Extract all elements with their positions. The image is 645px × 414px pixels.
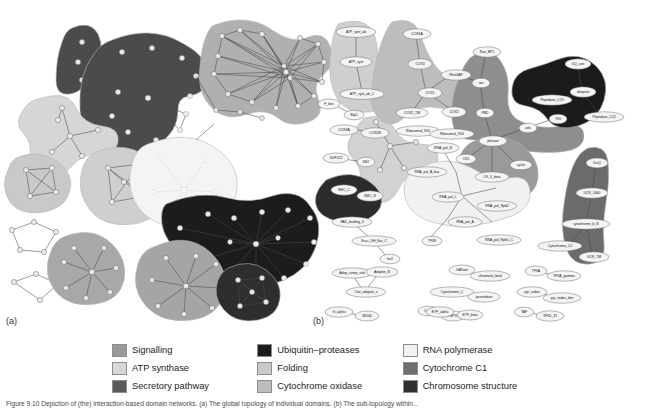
legend-item-ubiquitin-proteases: Ubiquitin–proteases [257,342,396,358]
svg-text:PBD: PBD [482,111,490,115]
svg-text:Peptidase_C19: Peptidase_C19 [540,98,563,102]
svg-text:UCR_14kD: UCR_14kD [583,191,601,195]
legend-swatch [257,362,272,375]
svg-text:FAD_binding_3: FAD_binding_3 [340,220,363,224]
legend-item-secretory-pathway: Secretory pathway [112,378,251,394]
svg-text:GATase: GATase [456,268,468,272]
svg-text:Succ_DH_flav_C: Succ_DH_flav_C [361,239,387,243]
svg-text:cytochrome_b_N: cytochrome_b_N [573,222,599,226]
svg-text:Cytochrome_C1: Cytochrome_C1 [548,244,573,248]
svg-text:ETF_beta: ETF_beta [463,313,478,317]
figure-protein-domain-networks: .blob{stroke:#b5b5b5;stroke-width:.6;} .… [0,0,645,414]
legend-swatch [403,344,418,357]
legend-item-cytochrome-oxidase: Cytochrome oxidase [257,378,396,394]
svg-text:RNA_pol_L: RNA_pol_L [439,195,456,199]
svg-text:Ran_BP1: Ran_BP1 [480,50,495,54]
svg-text:Cytochrome_C: Cytochrome_C [441,290,464,294]
legend-item-folding: Folding [257,360,396,376]
panel-b-label: (b) [313,316,324,326]
svg-text:cyclin: cyclin [517,163,526,167]
svg-text:Adap_comp_sub: Adap_comp_sub [339,271,365,275]
svg-text:RNA_pol_A_bac: RNA_pol_A_bac [414,170,439,174]
svg-text:F_box: F_box [324,102,334,106]
svg-text:RhoGAP: RhoGAP [449,73,463,77]
svg-text:UQ_con: UQ_con [572,62,585,66]
svg-text:CK_II_beta: CK_II_beta [484,175,501,179]
svg-text:SMC_N: SMC_N [364,194,376,198]
legend-item-rna-polymerase: RNA polymerase [403,342,542,358]
svg-text:UcrQ: UcrQ [593,161,601,165]
legend-label: Cytochrome C1 [423,363,488,373]
svg-text:RNA_pol_Rpb2: RNA_pol_Rpb2 [485,204,509,208]
svg-text:COX3: COX3 [415,62,424,66]
svg-text:COX6A: COX6A [411,32,423,36]
svg-text:TIG: TIG [555,117,561,121]
legend-swatch [112,380,127,393]
legend-label: Folding [277,363,308,373]
svg-text:UCR_TM: UCR_TM [587,255,601,259]
svg-text:ubiquitin: ubiquitin [577,90,590,94]
svg-text:Skp1: Skp1 [350,113,358,117]
svg-text:chromatin_bind: chromatin_bind [478,274,501,278]
svg-text:COX2: COX2 [449,110,458,114]
svg-text:WD40: WD40 [362,314,372,318]
svg-text:TFIIA_gamma: TFIIA_gamma [553,274,575,278]
legend: Signalling Ubiquitin–proteases RNA polym… [112,342,542,394]
svg-text:COX2_TM: COX2_TM [404,111,420,115]
svg-text:pkinase: pkinase [487,139,499,143]
legend-item-atp-synthase: ATP synthase [112,360,251,376]
legend-item-chromosome-structure: Chromosome structure [403,378,542,394]
svg-text:TFIIA: TFIIA [532,269,541,273]
svg-text:COX1: COX1 [425,91,434,95]
svg-text:ras: ras [479,81,484,85]
legend-label: ATP synthase [132,363,189,373]
legend-swatch [257,380,272,393]
svg-text:Clat_adaptor_s: Clat_adaptor_s [355,290,378,294]
legend-item-cytochrome-c1: Cytochrome C1 [403,360,542,376]
legend-swatch [403,380,418,393]
svg-text:SMC_C: SMC_C [338,188,350,192]
legend-label: Chromosome structure [423,381,518,391]
svg-text:ATP_synt_ab_C: ATP_synt_ab_C [350,92,375,96]
legend-swatch [257,344,272,357]
svg-text:pyr_redox_dim: pyr_redox_dim [551,296,574,300]
legend-label: RNA polymerase [423,345,493,355]
svg-text:ank: ank [525,126,531,130]
svg-text:Ribosomal_S14: Ribosomal_S14 [440,132,464,136]
network-diagram-svg: .blob{stroke:#b5b5b5;stroke-width:.6;} .… [0,0,645,340]
legend-swatch [112,362,127,375]
svg-text:ATP_synt_ab: ATP_synt_ab [346,30,366,34]
svg-text:DUF222: DUF222 [330,156,343,160]
svg-text:ATP_synt: ATP_synt [349,60,364,64]
svg-text:Ribosomal_S10: Ribosomal_S10 [406,129,430,133]
panel-a-label: (a) [6,316,17,326]
svg-text:KE2: KE2 [363,160,370,164]
legend-label: Ubiquitin–proteases [277,345,359,355]
svg-text:fer2: fer2 [387,257,393,261]
svg-text:RNA_pol_N: RNA_pol_N [434,146,452,150]
figure-caption: Figure 9.10 Depiction of (the) interacti… [6,400,639,413]
legend-swatch [403,362,418,375]
legend-swatch [112,344,127,357]
svg-text:TFIID_31: TFIID_31 [543,314,557,318]
svg-text:G_alpha: G_alpha [333,310,346,314]
svg-text:pyr_redox: pyr_redox [524,290,539,294]
svg-text:CK5: CK5 [463,157,470,161]
svg-text:TFIIS: TFIIS [428,239,437,243]
svg-text:Peptidase_C12: Peptidase_C12 [592,115,615,119]
svg-text:RNA_pol_Rpb5_C: RNA_pol_Rpb5_C [485,238,513,242]
legend-label: Secretory pathway [132,381,209,391]
svg-text:TAF: TAF [521,310,527,314]
svg-text:RNA_pol_A: RNA_pol_A [456,220,474,224]
svg-text:peroxidase: peroxidase [476,295,493,299]
legend-label: Signalling [132,345,172,355]
svg-text:COX5B: COX5B [369,131,381,135]
svg-text:COX4A: COX4A [338,128,350,132]
svg-text:ETF_alpha: ETF_alpha [432,310,449,314]
legend-label: Cytochrome oxidase [277,381,362,391]
legend-item-signalling: Signalling [112,342,251,358]
svg-text:Adaptin_N: Adaptin_N [374,270,390,274]
